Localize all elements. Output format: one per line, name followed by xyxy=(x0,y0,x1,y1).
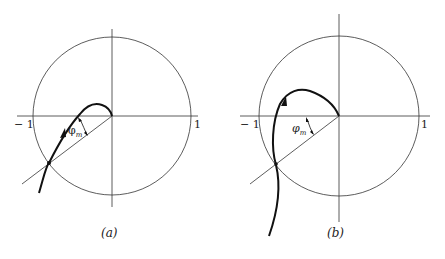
caption-b: (b) xyxy=(327,226,344,240)
angle-arrow-top-b xyxy=(306,117,309,122)
phi-symbol: φ xyxy=(292,122,300,135)
phi-symbol: φ xyxy=(68,124,76,137)
arrow-icon-a xyxy=(60,128,66,138)
phase-margin-label-b: φm xyxy=(292,122,306,137)
radial-line-a xyxy=(22,116,112,184)
nyquist-curve-b xyxy=(269,90,339,236)
crossing-point-a xyxy=(47,161,51,165)
nyquist-curve-a xyxy=(39,104,112,193)
phase-margin-label-a: φm xyxy=(68,124,82,139)
label-pos-one-b: 1 xyxy=(421,118,428,131)
angle-arrow-bottom-b xyxy=(310,130,314,135)
phi-subscript: m xyxy=(300,129,307,137)
label-neg-one-a: − 1 xyxy=(14,118,34,131)
figure-b xyxy=(240,14,430,236)
phi-subscript: m xyxy=(76,131,83,139)
caption-a: (a) xyxy=(101,226,118,240)
figure-a xyxy=(17,29,198,207)
crossing-point-b xyxy=(274,162,278,166)
diagram-canvas xyxy=(0,0,445,259)
label-neg-one-b: − 1 xyxy=(240,118,260,131)
label-pos-one-a: 1 xyxy=(194,118,201,131)
